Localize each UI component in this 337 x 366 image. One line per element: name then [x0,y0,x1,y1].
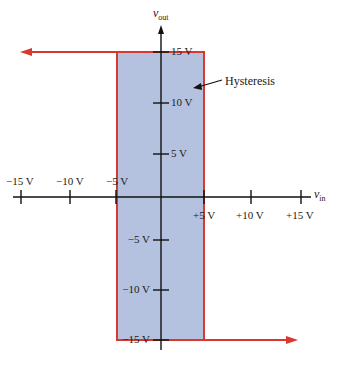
y-tick-label-10: 10 V [171,97,193,108]
x-tick-label-neg5: −5 V [106,176,128,187]
x-tick-label-pos5: +5 V [193,210,215,221]
y-tick-label-neg10: −10 V [110,284,150,295]
y-tick-label-neg15: −15 V [110,334,150,345]
hysteresis-annotation: Hysteresis [225,75,275,87]
hysteresis-diagram [0,0,337,366]
y-tick-label-5: 5 V [171,148,187,159]
y-tick-label-15: 15 V [171,46,193,57]
x-tick-label-pos15: +15 V [286,210,314,221]
y-tick-label-neg5: −5 V [110,234,150,245]
x-tick-label-neg10: −10 V [56,176,84,187]
x-tick-label-neg15: −15 V [6,176,34,187]
x-tick-label-pos10: +10 V [236,210,264,221]
x-axis-label: vin [314,188,326,203]
y-axis-arrow [158,25,164,34]
y-axis-label: vout [153,7,169,22]
arrowhead-right [286,336,298,344]
arrowhead-left [20,48,32,56]
